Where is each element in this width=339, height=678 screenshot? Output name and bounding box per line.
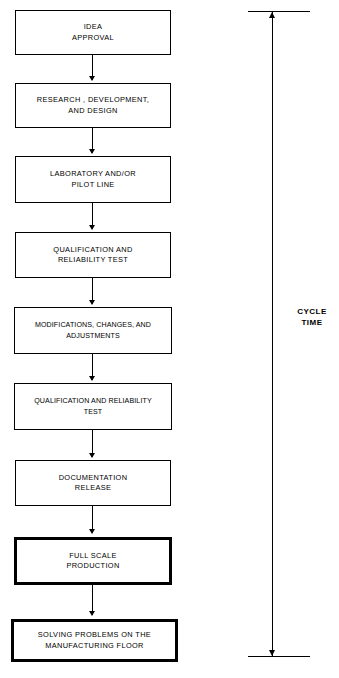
arrowhead-6	[89, 453, 95, 458]
flow-node-label: QUALIFICATION AND RELIABILITY TEST	[32, 396, 153, 417]
cycle-time-top-cap	[248, 11, 310, 12]
arrowhead-5	[89, 376, 95, 381]
flow-node-qualification-test-1: QUALIFICATION AND RELIABILITY TEST	[15, 232, 171, 278]
flow-node-modifications-changes: MODIFICATIONS, CHANGES, AND ADJUSTMENTS	[14, 307, 172, 354]
arrowhead-7	[89, 529, 95, 534]
flow-node-label: SOLVING PROBLEMS ON THE MANUFACTURING FL…	[36, 630, 153, 651]
cycle-time-label: CYCLE TIME	[288, 306, 336, 328]
arrowhead-1	[89, 76, 95, 81]
flow-node-research-development: RESEARCH , DEVELOPMENT, AND DESIGN	[15, 83, 171, 128]
arrowhead-2	[89, 149, 95, 154]
flowchart-canvas: IDEA APPROVAL RESEARCH , DEVELOPMENT, AN…	[0, 0, 339, 678]
flow-node-solving-problems: SOLVING PROBLEMS ON THE MANUFACTURING FL…	[11, 619, 178, 662]
flow-node-label: IDEA APPROVAL	[70, 22, 116, 43]
flow-node-label: FULL SCALE PRODUCTION	[64, 551, 121, 572]
arrowhead-8	[89, 611, 95, 616]
flow-node-qualification-test-2: QUALIFICATION AND RELIABILITY TEST	[14, 383, 172, 430]
flow-node-documentation-release: DOCUMENTATION RELEASE	[15, 460, 171, 506]
flow-node-label: LABORATORY AND/OR PILOT LINE	[48, 169, 138, 190]
flow-node-label: QUALIFICATION AND RELIABILITY TEST	[51, 245, 134, 266]
flow-node-label: MODIFICATIONS, CHANGES, AND ADJUSTMENTS	[33, 320, 153, 341]
flow-node-label: RESEARCH , DEVELOPMENT, AND DESIGN	[35, 95, 151, 116]
flow-node-laboratory-pilot-line: LABORATORY AND/OR PILOT LINE	[15, 156, 171, 203]
arrowhead-4	[89, 300, 95, 305]
flow-node-idea-approval: IDEA APPROVAL	[15, 10, 171, 55]
flow-node-label: DOCUMENTATION RELEASE	[57, 473, 130, 494]
cycle-time-axis-line	[272, 12, 273, 656]
cycle-time-bottom-cap	[248, 656, 310, 657]
flow-node-full-scale-production: FULL SCALE PRODUCTION	[14, 537, 172, 585]
arrowhead-3	[89, 225, 95, 230]
